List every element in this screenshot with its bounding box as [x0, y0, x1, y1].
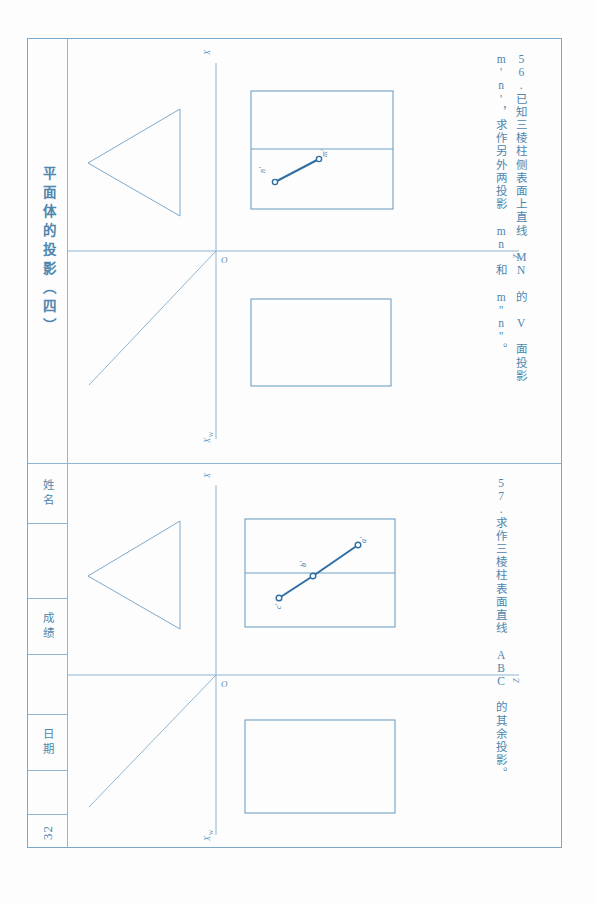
label-b-prime: b': [299, 561, 308, 567]
segment-c-b: [279, 576, 313, 598]
page-title: 平面体的投影（四）: [38, 166, 58, 337]
problem-57-drawing: X O Z X H X W: [67, 463, 561, 849]
worksheet-title-cell: 平面体的投影（四）: [28, 39, 67, 463]
problem-56-drawing: X O Z X H X W: [67, 39, 561, 463]
svg-text:b': b': [299, 561, 308, 567]
prism-profile-triangle: [88, 109, 180, 216]
point-c-prime: [276, 595, 282, 601]
problem-56: 56.已知三棱柱侧表面上直线 MN 的 V 面投影 m'n'，求作另外两投影 m…: [67, 39, 561, 463]
point-n-prime: [272, 179, 277, 184]
svg-text:n': n': [258, 167, 267, 173]
axis-diagonal-45: [89, 251, 216, 385]
label-name: 姓名: [40, 479, 56, 509]
page-number-cell: 32: [28, 814, 67, 849]
axis-label-z: Z: [511, 254, 521, 259]
point-b-prime: [310, 573, 316, 579]
svg-text:m': m': [320, 149, 329, 157]
page-frame: 平面体的投影（四） 姓名 成绩 日期 32 56.已知三棱柱侧表面上直线 MN …: [27, 38, 562, 848]
problem-57: 57.求作三棱柱表面直线 ABC 的其余投影。 X O Z X H: [67, 463, 561, 849]
label-n-prime: n': [258, 167, 267, 173]
axis-label-x-w: X W: [202, 829, 214, 842]
h-projection-box: [251, 299, 391, 386]
label-c-prime: c': [274, 603, 283, 609]
svg-text:a': a': [359, 537, 368, 543]
svg-text:X: X: [202, 437, 212, 444]
svg-text:W: W: [208, 829, 214, 835]
label-date-cell: 日期: [28, 714, 67, 770]
segment-m-n: [275, 159, 319, 182]
label-m-prime: m': [320, 149, 329, 157]
axis-label-x-top: X: [202, 472, 212, 479]
label-a-prime: a': [359, 537, 368, 543]
value-date-cell[interactable]: [28, 770, 67, 814]
value-name-cell[interactable]: [28, 523, 67, 598]
axis-diagonal-45: [89, 675, 216, 807]
h-projection-box: [245, 720, 395, 813]
svg-text:W: W: [208, 431, 214, 437]
segment-b-a: [313, 545, 358, 576]
value-score-cell[interactable]: [28, 654, 67, 714]
page-paper: 平面体的投影（四） 姓名 成绩 日期 32 56.已知三棱柱侧表面上直线 MN …: [0, 0, 595, 903]
axis-label-origin: O: [221, 255, 228, 265]
label-score: 成绩: [40, 612, 56, 642]
prism-profile-triangle: [88, 521, 180, 629]
label-date: 日期: [40, 728, 56, 758]
axis-label-x-w: X W: [202, 431, 214, 444]
axis-label-x-top: X: [202, 49, 212, 56]
axis-label-origin: O: [221, 679, 228, 689]
axis-label-z: Z: [511, 678, 521, 683]
svg-text:X: X: [202, 835, 212, 842]
page-number: 32: [40, 825, 56, 840]
svg-text:c': c': [274, 603, 283, 609]
label-name-cell: 姓名: [28, 463, 67, 523]
label-score-cell: 成绩: [28, 598, 67, 654]
